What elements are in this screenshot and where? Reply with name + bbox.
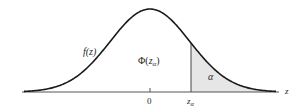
curve-label: f(z) bbox=[83, 46, 97, 58]
tail-alpha-label: α bbox=[208, 71, 214, 82]
tick-label-z-alpha: zα bbox=[186, 96, 195, 107]
cdf-phi: Φ bbox=[138, 55, 145, 66]
tick-alpha-sub: α bbox=[191, 100, 195, 107]
density-curve bbox=[24, 9, 276, 91]
normal-distribution-diagram: f(z) Φ(zα) α z 0 zα bbox=[0, 0, 305, 111]
cdf-close-paren: ) bbox=[156, 55, 159, 67]
axis-label-z: z bbox=[284, 86, 289, 96]
cdf-label: Φ(zα) bbox=[138, 55, 160, 68]
shaded-tail-area bbox=[191, 43, 276, 92]
tick-label-zero: 0 bbox=[147, 96, 152, 106]
